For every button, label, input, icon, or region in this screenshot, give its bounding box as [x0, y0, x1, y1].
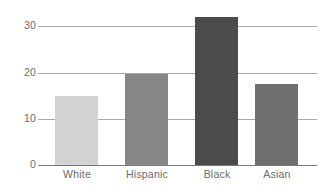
x-axis-baseline: [38, 165, 317, 166]
gridline-20: [38, 73, 317, 74]
y-tick-label-10: 10: [8, 113, 36, 124]
bar-asian: [255, 84, 298, 165]
bar-hispanic: [125, 74, 168, 165]
y-tick-label-20: 20: [8, 67, 36, 78]
x-label-asian: Asian: [248, 168, 306, 180]
bar-black: [195, 17, 238, 165]
bar-white: [55, 96, 98, 165]
x-label-white: White: [48, 168, 106, 180]
x-label-black: Black: [188, 168, 246, 180]
bar-chart: 30 20 10 0 White Hispanic Black Asian: [0, 0, 330, 189]
x-label-hispanic: Hispanic: [118, 168, 176, 180]
y-tick-label-30: 30: [8, 20, 36, 31]
y-tick-label-0: 0: [8, 159, 36, 170]
gridline-30: [38, 26, 317, 27]
